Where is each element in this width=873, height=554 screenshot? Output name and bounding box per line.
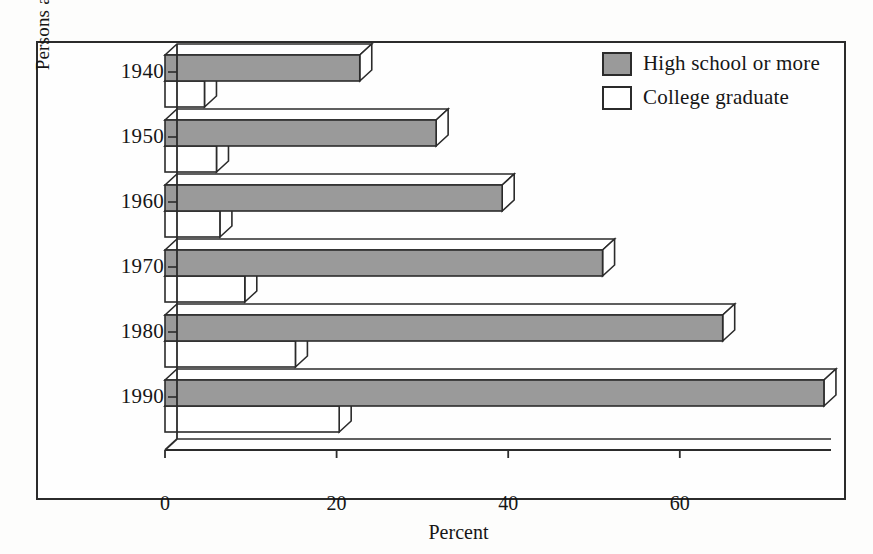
bar-highschool-1990 [165,369,836,406]
legend-item-college: College graduate [602,85,842,110]
bar-highschool-1960 [165,174,514,211]
bar-highschool-1980 [165,304,735,341]
chart-frame: Persons aged 25 or older 194019501960197… [36,41,846,500]
legend-swatch-icon [602,52,632,76]
x-axis-ticks [165,450,680,458]
x-tick-label-60: 60 [650,492,710,515]
bar-highschool-1950 [165,109,448,146]
legend-label: High school or more [643,51,820,76]
x-tick-label-40: 40 [478,492,538,515]
plot-area: Persons aged 25 or older 194019501960197… [38,43,844,498]
x-tick-label-20: 20 [307,492,367,515]
chart-legend: High school or moreCollege graduate [602,51,842,119]
bar-highschool-1970 [165,239,615,276]
legend-swatch-icon [602,86,632,110]
legend-label: College graduate [643,85,789,110]
legend-item-high-school: High school or more [602,51,842,76]
chart-canvas: Persons aged 25 or older 194019501960197… [0,0,873,554]
x-axis-title: Percent [201,521,716,544]
bar-highschool-1940 [165,44,372,81]
x-tick-label-0: 0 [135,492,195,515]
